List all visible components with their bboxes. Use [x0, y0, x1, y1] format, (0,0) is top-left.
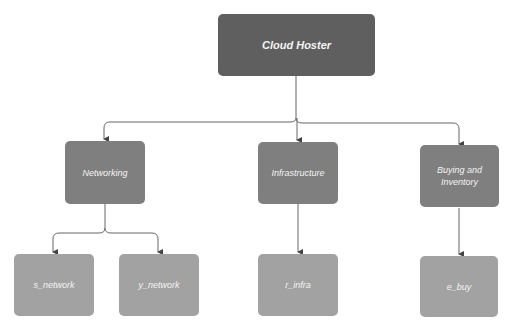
- node-label: Infrastructure: [271, 167, 324, 179]
- node-s-network: s_network: [14, 254, 94, 316]
- node-networking: Networking: [65, 141, 145, 204]
- node-label: e_buy: [447, 282, 472, 292]
- node-label: y_network: [138, 280, 179, 290]
- node-r-infra: r_infra: [258, 254, 338, 316]
- node-label: Buying and Inventory: [426, 164, 493, 188]
- node-infrastructure: Infrastructure: [258, 142, 338, 204]
- node-e-buy: e_buy: [420, 256, 498, 317]
- node-buying-and-inventory: Buying and Inventory: [420, 145, 499, 207]
- node-label: Cloud Hoster: [262, 39, 331, 51]
- node-label: s_network: [33, 280, 74, 290]
- node-y-network: y_network: [119, 254, 199, 316]
- node-label: r_infra: [285, 280, 311, 290]
- node-cloud-hoster: Cloud Hoster: [218, 14, 375, 76]
- node-label: Networking: [82, 167, 127, 179]
